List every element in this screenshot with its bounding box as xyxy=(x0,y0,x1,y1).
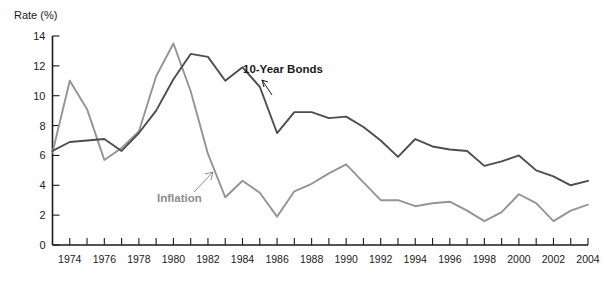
y-tick-label: 6 xyxy=(39,149,45,161)
annotation-inflation-leader xyxy=(194,172,213,192)
x-tick-label: 1998 xyxy=(473,253,497,265)
x-tick-label: 2004 xyxy=(576,253,600,265)
x-tick-label: 1986 xyxy=(265,253,289,265)
x-tick-label: 1984 xyxy=(231,253,255,265)
x-tick-label: 1988 xyxy=(300,253,324,265)
x-axis-ticks: 1974197619781980198219841986198819901992… xyxy=(58,238,600,265)
y-tick-label: 10 xyxy=(33,90,45,102)
x-tick-label: 1982 xyxy=(196,253,220,265)
x-tick-label: 1974 xyxy=(58,253,82,265)
y-tick-label: 2 xyxy=(39,209,45,221)
annotation-bonds-leader xyxy=(262,80,272,95)
y-tick-label: 14 xyxy=(33,30,45,42)
x-tick-label: 1976 xyxy=(93,253,117,265)
x-tick-label: 1994 xyxy=(404,253,428,265)
x-tick-label: 2002 xyxy=(542,253,566,265)
y-tick-label: 12 xyxy=(33,60,45,72)
x-tick-label: 1992 xyxy=(369,253,393,265)
y-tick-label: 4 xyxy=(39,179,45,191)
x-tick-label: 1990 xyxy=(334,253,358,265)
x-tick-label: 2000 xyxy=(507,253,531,265)
chart-container: Rate (%) 02468101214 1974197619781980198… xyxy=(0,0,605,283)
x-tick-label: 1978 xyxy=(127,253,151,265)
y-axis-title: Rate (%) xyxy=(14,9,57,21)
annotation-inflation-label: Inflation xyxy=(157,192,202,204)
annotation-bonds-label: 10-Year Bonds xyxy=(243,63,323,75)
y-tick-label: 0 xyxy=(39,239,45,251)
x-tick-label: 1996 xyxy=(438,253,462,265)
line-chart: Rate (%) 02468101214 1974197619781980198… xyxy=(0,0,605,283)
y-tick-label: 8 xyxy=(39,120,45,132)
x-tick-label: 1980 xyxy=(162,253,186,265)
